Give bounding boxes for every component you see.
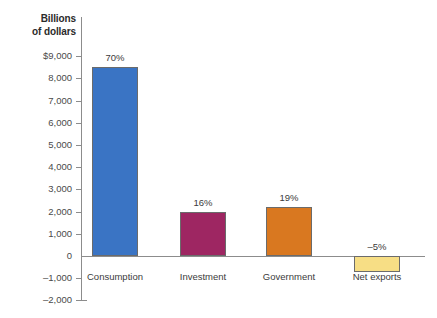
y-axis-tick — [76, 189, 82, 190]
category-label-government: Government — [242, 271, 336, 282]
y-axis-tick-label: –2,000 — [0, 295, 72, 305]
y-axis-title-line-2: of dollars — [32, 26, 76, 37]
category-label-net-exports: Net exports — [330, 271, 424, 282]
y-axis-tick-label: $9,000 — [0, 51, 72, 61]
bar-value-label: 70% — [80, 53, 150, 63]
bar-value-label: 16% — [168, 198, 238, 208]
y-axis-tick — [76, 145, 82, 146]
y-axis-tick-label: 5,000 — [0, 140, 72, 150]
bar-consumption[interactable] — [92, 67, 138, 256]
category-label-investment: Investment — [156, 271, 250, 282]
y-axis-tick — [76, 78, 82, 79]
y-axis-tick — [76, 234, 82, 235]
y-axis-tick-label: 1,000 — [0, 229, 72, 239]
y-axis-tick-label: 3,000 — [0, 184, 72, 194]
y-axis-tick-label: 4,000 — [0, 162, 72, 172]
y-axis-tick-label: 7,000 — [0, 96, 72, 106]
y-axis-tick — [76, 300, 82, 301]
y-axis-title-line-1: Billions — [41, 13, 76, 24]
y-axis-tick — [76, 123, 82, 124]
y-axis-title: Billions of dollars — [6, 13, 76, 38]
bar-value-label: 19% — [254, 193, 324, 203]
bar-chart: Billions of dollars $9,0008,0007,0006,00… — [0, 0, 437, 318]
y-axis-tick — [76, 101, 82, 102]
y-axis-tick-label: 6,000 — [0, 118, 72, 128]
category-label-consumption: Consumption — [68, 271, 162, 282]
y-axis-tick — [76, 167, 82, 168]
y-axis-tick — [76, 212, 82, 213]
bar-investment[interactable] — [180, 212, 226, 256]
y-axis-tick-label: –1,000 — [0, 273, 72, 283]
bar-value-label: –5% — [342, 242, 412, 252]
y-axis-tick-label: 2,000 — [0, 207, 72, 217]
bar-net-exports[interactable] — [354, 256, 400, 272]
y-axis-tick-label: 8,000 — [0, 73, 72, 83]
y-axis-tick-label: 0 — [0, 251, 72, 261]
bar-government[interactable] — [266, 207, 312, 256]
